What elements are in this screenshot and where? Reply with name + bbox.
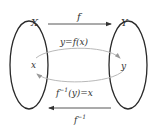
set-y-ellipse	[109, 21, 147, 109]
forward-mapping-curve	[36, 48, 120, 58]
set-x-ellipse	[10, 21, 48, 109]
forward-arrow-label: f	[76, 11, 83, 22]
element-x-label: x	[31, 60, 36, 70]
forward-equation: y=f(x)	[59, 37, 89, 47]
diagram-svg: X Y f y=f(x) x y f−1(y)=x f−1	[0, 0, 158, 132]
set-x-label: X	[30, 17, 39, 28]
inverse-arrow-label: f−1	[73, 113, 86, 125]
inverse-equation-rest: (y)=x	[68, 88, 93, 98]
inverse-equation-sup: −1	[59, 86, 68, 93]
inverse-arrow-label-sup: −1	[77, 113, 86, 120]
inverse-mapping-curve	[37, 70, 124, 82]
element-y-label: y	[120, 61, 127, 71]
set-y-label: Y	[121, 17, 129, 28]
inverse-equation: f−1(y)=x	[55, 86, 93, 98]
function-inverse-diagram: X Y f y=f(x) x y f−1(y)=x f−1	[0, 0, 158, 132]
